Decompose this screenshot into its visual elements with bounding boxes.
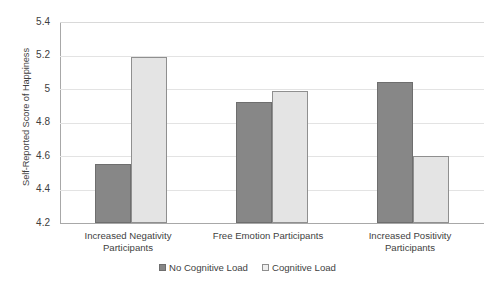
bar-1-series-1 (272, 91, 308, 223)
x-category-label-1-line1: Free Emotion Participants (188, 230, 348, 242)
legend-swatch-icon-cognitive-load (262, 264, 269, 271)
legend-item-no-cognitive-load: No Cognitive Load (159, 262, 248, 273)
gridline-5.2 (60, 56, 484, 57)
legend-label-cognitive-load: Cognitive Load (272, 262, 336, 273)
x-category-label-0-line1: Increased Negativity (48, 230, 208, 242)
y-tick-label-5.2: 5.2 (22, 50, 50, 60)
x-category-label-2-line2: Participants (330, 242, 490, 254)
bar-2-series-0 (377, 82, 413, 223)
y-tick-label-4.2: 4.2 (22, 218, 50, 228)
x-category-label-2-line1: Increased Positivity (330, 230, 490, 242)
plot-area (60, 22, 484, 223)
legend-label-no-cognitive-load: No Cognitive Load (169, 262, 248, 273)
x-axis-line (60, 223, 484, 224)
bar-0-series-1 (131, 57, 167, 223)
y-tick-label-5.4: 5.4 (22, 17, 50, 27)
y-tick-label-5.0: 5 (22, 84, 50, 94)
bar-1-series-0 (236, 102, 272, 223)
bar-2-series-1 (413, 156, 449, 223)
x-category-label-2: Increased Positivity Participants (330, 230, 490, 254)
legend-item-cognitive-load: Cognitive Load (262, 262, 336, 273)
y-tick-label-4.6: 4.6 (22, 151, 50, 161)
legend-swatch-icon-no-cognitive-load (159, 264, 166, 271)
x-category-label-1: Free Emotion Participants (188, 230, 348, 242)
y-tick-label-4.4: 4.4 (22, 184, 50, 194)
bar-chart-figure: Self-Reported Score of Happiness 5.4 5.2… (0, 0, 495, 283)
gridline-5.4 (60, 22, 484, 23)
chart-legend: No Cognitive Load Cognitive Load (0, 262, 495, 273)
x-category-label-0: Increased Negativity Participants (48, 230, 208, 254)
bar-0-series-0 (95, 164, 131, 223)
x-category-label-0-line2: Participants (48, 242, 208, 254)
y-tick-label-4.8: 4.8 (22, 117, 50, 127)
